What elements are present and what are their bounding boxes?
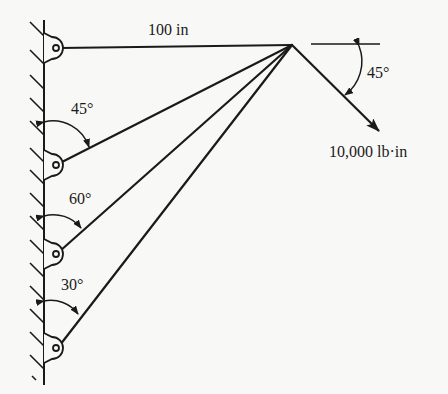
bar-3: [60, 45, 292, 251]
diagram-graphics: [0, 0, 448, 394]
moment-vector-arrow: [292, 45, 379, 131]
bar-4: [60, 45, 292, 345]
bar-2: [60, 45, 292, 163]
bars: [60, 45, 292, 345]
angle-arc-bar-2: [44, 121, 89, 147]
bar-1: [60, 45, 292, 48]
load-angle-label: 45°: [367, 65, 389, 81]
angle-label-bar-4: 30°: [61, 277, 83, 293]
angle-arc-bar-3: [44, 215, 81, 228]
pin-support-1: [44, 33, 63, 63]
wall-hatching: [30, 22, 44, 380]
pin-support-4: [44, 333, 63, 363]
pin-support-2: [44, 150, 63, 180]
truss-diagram: 100 in 45° 60° 30° 45° 10,000 lb·in: [0, 0, 448, 394]
angle-label-bar-2: 45°: [71, 101, 93, 117]
load-angle-arc: [345, 46, 362, 95]
pin-support-3: [44, 239, 63, 269]
load-magnitude-label: 10,000 lb·in: [329, 144, 407, 160]
top-bar-length-label: 100 in: [148, 22, 188, 38]
angle-arc-bar-4: [44, 300, 78, 314]
angle-label-bar-3: 60°: [69, 191, 91, 207]
